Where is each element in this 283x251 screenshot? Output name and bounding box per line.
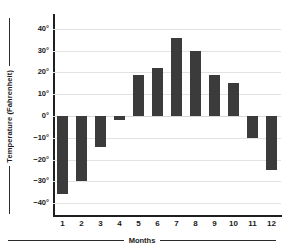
x-tick-label-4: 4 <box>117 219 121 229</box>
bar-month-12[interactable] <box>266 116 278 170</box>
y-axis-title-group: Temperature (Fahrenheit) <box>0 18 18 214</box>
x-axis-tick-labels: 123456789101112 <box>53 219 281 233</box>
y-tick-label--30: −30° <box>33 177 49 185</box>
y-tick-label-40: 40° <box>38 25 49 33</box>
y-tick-label--20: −20° <box>33 156 49 164</box>
bar-month-4[interactable] <box>114 116 126 120</box>
x-tick-label-8: 8 <box>193 219 197 229</box>
x-axis-title-rule-left <box>8 240 124 241</box>
bar-month-10[interactable] <box>228 83 240 116</box>
plot-area <box>53 18 281 214</box>
y-tick-label-30: 30° <box>38 47 49 55</box>
bar-month-8[interactable] <box>190 51 202 116</box>
x-axis-title-rule-right <box>160 240 276 241</box>
x-tick-label-3: 3 <box>98 219 102 229</box>
bar-month-11[interactable] <box>247 116 259 138</box>
x-tick-label-9: 9 <box>212 219 216 229</box>
bar-month-6[interactable] <box>152 68 164 116</box>
x-axis-title-group: Months <box>8 234 276 246</box>
y-axis-title-rule-top <box>9 18 10 66</box>
bar-month-9[interactable] <box>209 75 221 116</box>
x-axis-title: Months <box>129 236 156 245</box>
y-axis-title-rule-bottom <box>9 166 10 214</box>
x-tick-label-10: 10 <box>229 219 238 229</box>
x-tick-label-2: 2 <box>79 219 83 229</box>
y-axis-tick-labels: 40°30°20°10°0°−10°−20°−30°−40° <box>18 0 52 251</box>
bar-month-2[interactable] <box>76 116 88 181</box>
x-tick-label-1: 1 <box>60 219 64 229</box>
y-tick-label-20: 20° <box>38 68 49 76</box>
x-tick-label-7: 7 <box>174 219 178 229</box>
x-tick-label-5: 5 <box>136 219 140 229</box>
x-tick-label-11: 11 <box>248 219 256 229</box>
x-axis-line <box>53 215 282 217</box>
bar-month-5[interactable] <box>133 75 145 116</box>
bar-series <box>53 18 281 214</box>
y-tick-label-10: 10° <box>38 90 49 98</box>
y-tick-label--10: −10° <box>33 134 49 142</box>
y-tick-label-0: 0° <box>42 112 49 120</box>
temperature-bar-chart: Temperature (Fahrenheit) 40°30°20°10°0°−… <box>0 0 283 251</box>
y-tick-label--40: −40° <box>33 199 49 207</box>
x-tick-label-12: 12 <box>267 219 276 229</box>
y-axis-title: Temperature (Fahrenheit) <box>5 66 14 167</box>
bar-month-3[interactable] <box>95 116 107 147</box>
bar-month-1[interactable] <box>57 116 69 194</box>
x-tick-label-6: 6 <box>155 219 159 229</box>
bar-month-7[interactable] <box>171 38 183 116</box>
